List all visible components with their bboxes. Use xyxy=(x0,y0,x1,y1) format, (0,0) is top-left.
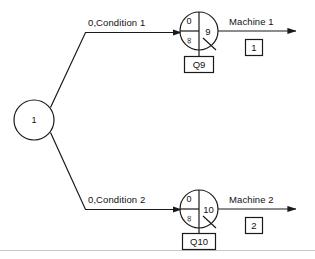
queue-node-1-capacity: 0 xyxy=(182,17,196,26)
machine-2-label: Machine 2 xyxy=(229,195,274,205)
queue-node-2-infinity: ∞ xyxy=(185,212,194,226)
queue-node-2-name: Q10 xyxy=(182,237,216,247)
queue-node-2-capacity: 0 xyxy=(182,195,196,204)
queue-node-1-servers: 9 xyxy=(201,27,215,37)
source-node-label: 1 xyxy=(24,116,44,125)
queue-node-1-infinity: ∞ xyxy=(185,34,194,48)
machine-1-box-value: 1 xyxy=(245,43,263,53)
machine-1-label: Machine 1 xyxy=(229,17,274,27)
queue-node-2-servers: 10 xyxy=(200,205,217,215)
queue-node-1-name: Q9 xyxy=(184,60,214,70)
diagram-vector-layer xyxy=(0,0,315,259)
diagram-canvas: 1 0,Condition 1 0 ∞ 9 Q9 Machine 1 1 0,C… xyxy=(0,0,315,259)
machine-2-box-value: 2 xyxy=(245,221,263,231)
edge-source-to-queue-1 xyxy=(51,33,182,108)
edge-label-condition-1: 0,Condition 1 xyxy=(88,18,145,28)
edge-label-condition-2: 0,Condition 2 xyxy=(88,195,145,205)
